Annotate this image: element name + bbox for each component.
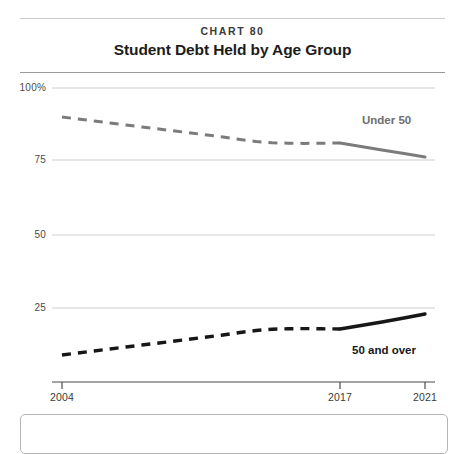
y-tick-label-25: 25 [6,302,46,313]
x-tick-label-2004: 2004 [39,391,85,403]
caption-box [20,414,448,454]
series-50-and-over-dashed [62,329,340,355]
x-axis [52,382,435,389]
x-tick-label-2017: 2017 [317,391,363,403]
x-tick-label-2021: 2021 [402,391,448,403]
series-label-under-50: Under 50 [362,114,411,126]
series-50-and-over-solid [340,314,425,329]
series-under-50-dashed [62,117,340,143]
series-label-50-and-over: 50 and over [352,344,416,356]
series-under-50-solid [340,143,425,157]
y-tick-label-100: 100% [6,82,46,93]
y-tick-label-75: 75 [6,154,46,165]
y-tick-label-50: 50 [6,229,46,240]
